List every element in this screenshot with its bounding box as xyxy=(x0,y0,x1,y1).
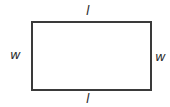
width-label-right: w xyxy=(155,50,166,63)
length-label-top: l xyxy=(86,4,90,17)
length-label-bottom: l xyxy=(86,92,90,105)
rectangle-shape xyxy=(31,21,152,91)
width-label-left: w xyxy=(10,48,21,61)
